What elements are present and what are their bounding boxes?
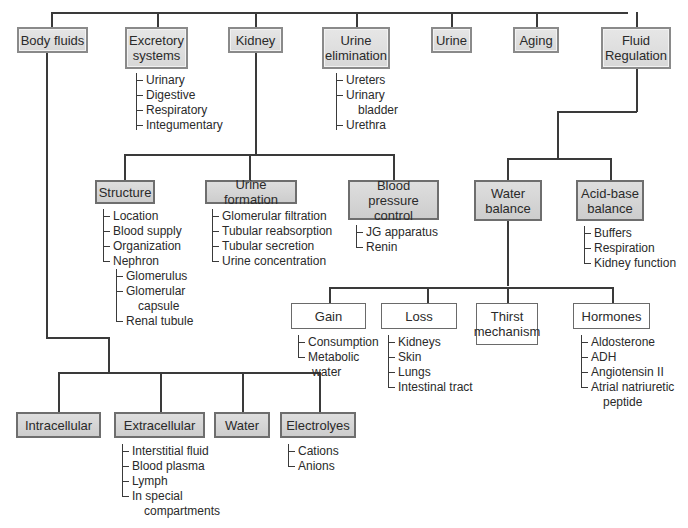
urine-elimination-list: Ureters Urinary bladder Urethra (336, 73, 398, 133)
connector (451, 12, 453, 28)
node-label: Thirstmechanism (474, 309, 540, 339)
connector (557, 111, 637, 113)
hormones-list: Aldosterone ADH Angiotensin II Atrial na… (581, 335, 674, 410)
node-label: Extracellular (124, 418, 196, 433)
node-water[interactable]: Water (214, 412, 270, 438)
connector (255, 52, 257, 154)
connector-top (255, 12, 628, 14)
node-label: Urine formation (207, 177, 295, 207)
connector (51, 12, 53, 28)
node-label: FluidRegulation (605, 33, 667, 63)
node-label: Urineelimination (325, 33, 387, 63)
connector (507, 158, 509, 180)
node-loss[interactable]: Loss (381, 303, 457, 329)
connector (242, 372, 244, 412)
connector (507, 287, 509, 303)
connector (536, 12, 538, 28)
gain-list: Consumption Metabolic water (298, 335, 379, 380)
node-kidney[interactable]: Kidney (228, 27, 283, 53)
node-gain[interactable]: Gain (291, 303, 366, 329)
node-urine[interactable]: Urine (431, 27, 472, 53)
connector (329, 287, 331, 303)
connector (636, 68, 638, 112)
excretory-systems-list: Urinary Digestive Respiratory Integument… (136, 73, 223, 133)
connector (124, 154, 394, 156)
node-urine-elimination[interactable]: Urineelimination (322, 27, 390, 69)
connector (124, 154, 126, 180)
connector (46, 52, 48, 337)
node-hormones[interactable]: Hormones (573, 303, 650, 329)
node-label: Urine (436, 33, 467, 48)
connector (255, 12, 257, 28)
connector (356, 12, 358, 28)
structure-list: Location Blood supply Organization Nephr… (103, 209, 182, 269)
connector (507, 220, 509, 286)
node-label: Loss (405, 309, 432, 324)
loss-list: Kidneys Skin Lungs Intestinal tract (388, 335, 473, 395)
connector (507, 158, 611, 160)
node-body-fluids[interactable]: Body fluids (17, 27, 88, 53)
connector (557, 111, 559, 158)
connector (58, 372, 60, 412)
nephron-list: Glomerulus Glomerular capsule Renal tubu… (116, 269, 193, 329)
node-fluid-regulation[interactable]: FluidRegulation (601, 27, 671, 69)
node-label: Excretorysystems (129, 33, 184, 63)
node-intracellular[interactable]: Intracellular (16, 412, 101, 438)
node-structure[interactable]: Structure (95, 180, 155, 204)
node-excretory-systems[interactable]: Excretorysystems (125, 27, 188, 69)
connector (58, 372, 320, 374)
node-urine-formation[interactable]: Urine formation (205, 180, 297, 204)
node-label: Intracellular (25, 418, 92, 433)
node-label: Water (225, 418, 259, 433)
connector (157, 12, 159, 28)
node-label: Electrolyes (286, 418, 350, 433)
acid-base-list: Buffers Respiration Kidney function (584, 226, 676, 271)
extracellular-list: Interstitial fluid Blood plasma Lymph In… (122, 444, 220, 519)
node-extracellular[interactable]: Extracellular (114, 412, 205, 438)
node-label: Hormones (582, 309, 642, 324)
node-electrolytes[interactable]: Electrolyes (280, 412, 356, 438)
node-label: Aging (519, 33, 552, 48)
electrolytes-list: Cations Anions (288, 444, 339, 474)
node-label: Acid-basebalance (581, 186, 639, 216)
node-acid-base-balance[interactable]: Acid-basebalance (576, 180, 644, 221)
connector (636, 12, 638, 28)
node-thirst-mechanism[interactable]: Thirstmechanism (476, 303, 538, 345)
node-blood-pressure-control[interactable]: Blood pressurecontrol (348, 180, 439, 220)
node-label: Blood pressurecontrol (350, 178, 437, 223)
node-label: Gain (315, 309, 342, 324)
node-label: Waterbalance (485, 186, 531, 216)
connector (427, 287, 429, 303)
node-aging[interactable]: Aging (513, 27, 559, 53)
urine-formation-list: Glomerular filtration Tubular reabsorpti… (212, 209, 332, 269)
node-label: Body fluids (21, 33, 85, 48)
connector (612, 287, 614, 303)
connector (46, 337, 109, 339)
connector (610, 158, 612, 180)
node-label: Kidney (236, 33, 276, 48)
connector (160, 372, 162, 412)
node-label: Structure (99, 185, 152, 200)
blood-pressure-list: JG apparatus Renin (356, 225, 438, 255)
connector (393, 154, 395, 180)
connector (108, 337, 110, 372)
node-water-balance[interactable]: Waterbalance (474, 180, 542, 221)
connector (329, 287, 613, 289)
